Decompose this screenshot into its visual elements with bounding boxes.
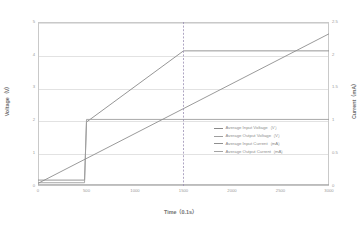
legend-label: Average Output Current（mA）: [226, 150, 286, 154]
y-axis-left-tick-label: 2: [21, 118, 35, 122]
chart-legend: Average Input Voltage（V）Average Output V…: [214, 126, 286, 154]
legend-item[interactable]: Average Input Current（mA）: [214, 142, 286, 146]
y-axis-left-tick-label: 1: [21, 151, 35, 155]
y-axis-left-title: Voltage（V）: [3, 75, 11, 125]
y-axis-right-title: Current（mA）: [350, 75, 358, 125]
legend-color-swatch: [214, 143, 223, 144]
y-axis-right-tick-label: 2.5: [332, 20, 348, 24]
y-axis-left-tick-label: 3: [21, 85, 35, 89]
y-axis-left-tick-label: 5: [21, 20, 35, 24]
y-axis-right-tick-label: 0.5: [332, 151, 348, 155]
y-axis-left-tick-label: 4: [21, 53, 35, 57]
legend-color-swatch: [214, 136, 223, 137]
legend-label: Average Output Voltage（V）: [226, 134, 282, 138]
legend-label: Average Input Current（mA）: [226, 142, 283, 146]
chart-container: 012345 00.511.522.5 05001000150020002500…: [0, 0, 361, 230]
y-axis-left-tick-label: 0: [21, 184, 35, 188]
x-axis-tick-label: 1500: [172, 189, 196, 193]
x-axis-tick-label: 2500: [269, 189, 293, 193]
y-axis-right-tick-label: 1.5: [332, 85, 348, 89]
x-axis-tick-label: 0: [26, 189, 50, 193]
x-axis-tick-label: 3000: [317, 189, 341, 193]
legend-color-swatch: [214, 151, 223, 152]
y-axis-right-tick-label: 2: [332, 53, 348, 57]
y-axis-right-tick-label: 0: [332, 184, 348, 188]
legend-color-swatch: [214, 128, 223, 129]
legend-item[interactable]: Average Output Current（mA）: [214, 150, 286, 154]
x-axis-tick-label: 2000: [220, 189, 244, 193]
legend-label: Average Input Voltage（V）: [226, 126, 279, 130]
x-axis-tick-label: 500: [75, 189, 99, 193]
y-axis-right-tick-label: 1: [332, 118, 348, 122]
data-series-layer: [38, 22, 329, 186]
x-axis-tick-label: 1000: [123, 189, 147, 193]
legend-item[interactable]: Average Input Voltage（V）: [214, 126, 286, 130]
legend-item[interactable]: Average Output Voltage（V）: [214, 134, 286, 138]
x-axis-title: Time（0.1s）: [0, 208, 361, 216]
